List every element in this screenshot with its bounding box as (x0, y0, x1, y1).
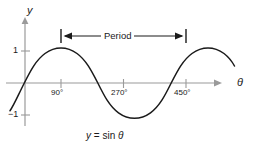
x-axis (6, 80, 222, 87)
period-label: Period (101, 31, 134, 41)
y-tick-label-minus1: −1 (8, 110, 18, 119)
caption-sin: sin (102, 130, 115, 141)
y-tick-label-1: 1 (13, 46, 18, 55)
sine-wave-figure: y θ 1 −1 90° 270° 450° Period y = sin θ (0, 0, 261, 152)
y-axis-label: y (27, 5, 33, 16)
x-tick-label-450: 450° (174, 89, 191, 97)
x-axis-label: θ (237, 77, 243, 88)
figure-caption: y = sin θ (86, 131, 123, 141)
y-axis (22, 17, 29, 126)
x-tick-label-90: 90° (51, 89, 63, 97)
plot-canvas (0, 0, 261, 152)
caption-theta: θ (118, 130, 123, 141)
x-tick-label-270: 270° (111, 89, 128, 97)
